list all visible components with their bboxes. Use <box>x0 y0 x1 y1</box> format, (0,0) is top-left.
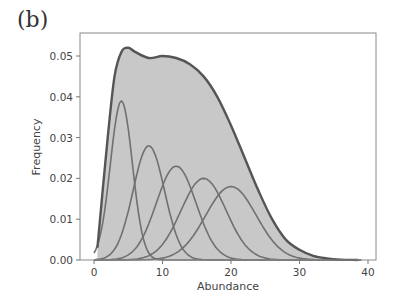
x-tick-label: 0 <box>91 266 98 278</box>
x-tick-label: 20 <box>224 266 237 278</box>
y-tick-label: 0.03 <box>50 132 73 144</box>
y-tick-label: 0.05 <box>50 50 73 62</box>
plot-area <box>94 48 361 260</box>
abundance-frequency-chart: 0.000.010.020.030.040.05 010203040 Abund… <box>0 0 402 307</box>
x-axis-ticks: 010203040 <box>91 260 375 278</box>
y-axis-ticks: 0.000.010.020.030.040.05 <box>50 50 80 266</box>
y-tick-label: 0.01 <box>50 213 73 225</box>
envelope-fill <box>97 48 357 260</box>
x-axis-label: Abundance <box>197 280 259 293</box>
y-axis-label: Frequency <box>30 118 43 175</box>
x-tick-label: 40 <box>361 266 374 278</box>
y-tick-label: 0.04 <box>50 91 74 103</box>
y-tick-label: 0.02 <box>50 172 73 184</box>
y-tick-label: 0.00 <box>50 254 73 266</box>
x-tick-label: 10 <box>156 266 169 278</box>
x-tick-label: 30 <box>293 266 306 278</box>
